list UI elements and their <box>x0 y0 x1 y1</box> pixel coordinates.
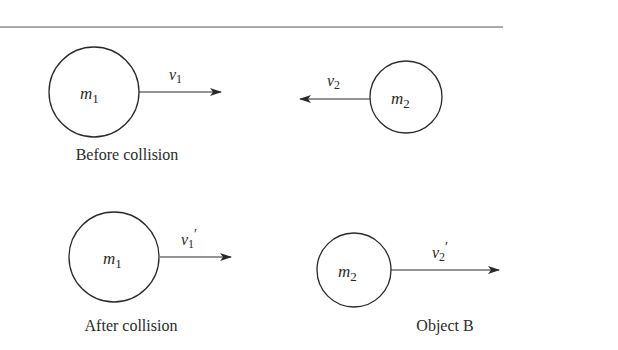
mass1-label-after: m1 <box>103 249 122 271</box>
mass2-label-after: m2 <box>338 262 357 284</box>
after-object1: m1 v1′ <box>69 212 231 302</box>
mass2-label-before: m2 <box>391 89 410 111</box>
after-caption: After collision <box>85 317 178 334</box>
before-object1: m1 v1 <box>49 47 221 137</box>
mass1-label-before: m1 <box>80 84 99 106</box>
collision-diagram: m1 v1 m2 v2 Before collision m1 v1′ m2 v… <box>0 0 618 350</box>
velocity2-label-before: v2 <box>327 72 340 92</box>
velocity1-label-before: v1 <box>169 66 182 86</box>
velocity2-label-after: v2′ <box>432 240 448 264</box>
object-b-caption: Object B <box>416 317 473 335</box>
velocity1-label-after: v1′ <box>181 227 197 251</box>
before-object2: m2 v2 <box>300 61 442 133</box>
after-object2: m2 v2′ <box>317 233 499 307</box>
before-caption: Before collision <box>76 146 179 163</box>
